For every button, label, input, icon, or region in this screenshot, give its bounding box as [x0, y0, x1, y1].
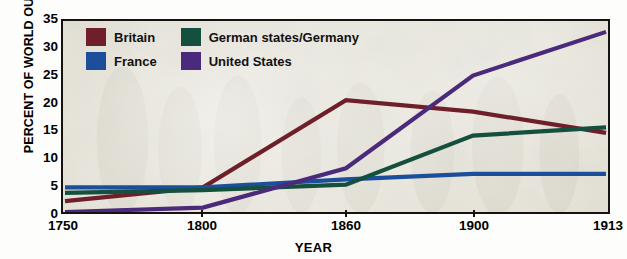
- x-tick-mark: [201, 210, 203, 217]
- y-tick-label: 30: [18, 40, 58, 54]
- legend-swatch: [181, 28, 201, 46]
- y-tick-label: 35: [18, 12, 58, 26]
- chart-root: PERCENT OF WORLD OUTPUT 05101520253035: [0, 0, 627, 259]
- x-tick-label: 1860: [324, 219, 368, 233]
- x-tick-label: 1750: [41, 219, 85, 233]
- x-tick-label: 1900: [452, 219, 496, 233]
- legend-swatch: [181, 52, 201, 70]
- legend-label: Britain: [114, 30, 173, 45]
- x-axis-label: YEAR: [0, 240, 627, 255]
- legend-label: United States: [209, 54, 375, 69]
- legend-label: German states/Germany: [209, 30, 375, 45]
- series-line: [65, 127, 606, 193]
- y-tick-label: 15: [18, 123, 58, 137]
- legend-swatch: [86, 52, 106, 70]
- x-tick-label: 1913: [586, 219, 627, 233]
- y-tick-label: 25: [18, 68, 58, 82]
- legend-swatch: [86, 28, 106, 46]
- x-tick-mark: [345, 210, 347, 217]
- x-tick-label: 1800: [180, 219, 224, 233]
- y-tick-label: 20: [18, 96, 58, 110]
- y-tick-label: 10: [18, 151, 58, 165]
- chart-legend: BritainGerman states/GermanyFranceUnited…: [86, 28, 375, 70]
- x-tick-mark: [473, 210, 475, 217]
- y-tick-label: 5: [18, 179, 58, 193]
- legend-label: France: [114, 54, 173, 69]
